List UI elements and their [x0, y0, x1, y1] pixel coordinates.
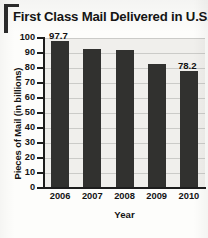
y-tick-label: 0: [5, 182, 35, 192]
y-tick-mark: [37, 37, 44, 39]
bar: [83, 49, 101, 188]
y-tick-label: 70: [5, 77, 35, 87]
y-tick-mark: [37, 142, 44, 144]
y-tick-label: 40: [5, 122, 35, 132]
y-tick-mark: [37, 52, 44, 54]
y-tick-label: 50: [5, 107, 35, 117]
y-tick-mark: [37, 157, 44, 159]
y-tick-mark: [37, 97, 44, 99]
y-tick-mark: [37, 112, 44, 114]
x-axis-line: [43, 187, 206, 189]
bar: [180, 71, 198, 188]
x-axis-title: Year: [44, 209, 205, 220]
y-tick-label: 30: [5, 137, 35, 147]
y-tick-label: 90: [5, 47, 35, 57]
bar: [51, 41, 69, 188]
y-tick-label: 100: [5, 32, 35, 42]
gridline: [44, 38, 205, 39]
chart-title: First Class Mail Delivered in U.S.: [13, 7, 206, 27]
bar: [116, 50, 134, 188]
x-tick-label: 2007: [76, 191, 108, 201]
bar-value-label: 97.7: [49, 30, 68, 41]
y-tick-label: 20: [5, 152, 35, 162]
y-tick-mark: [37, 127, 44, 129]
y-tick-mark: [37, 187, 44, 189]
y-tick-label: 80: [5, 62, 35, 72]
y-tick-label: 10: [5, 167, 35, 177]
bar-value-label: 78.2: [178, 60, 197, 71]
x-tick-label: 2010: [173, 191, 205, 201]
bar: [148, 64, 166, 189]
y-tick-mark: [37, 172, 44, 174]
y-tick-label: 60: [5, 92, 35, 102]
x-tick-label: 2006: [44, 191, 76, 201]
y-tick-mark: [37, 67, 44, 69]
bar-chart-figure: First Class Mail Delivered in U.S. Piece…: [0, 0, 208, 238]
x-tick-label: 2009: [141, 191, 173, 201]
x-tick-label: 2008: [109, 191, 141, 201]
y-tick-mark: [37, 82, 44, 84]
